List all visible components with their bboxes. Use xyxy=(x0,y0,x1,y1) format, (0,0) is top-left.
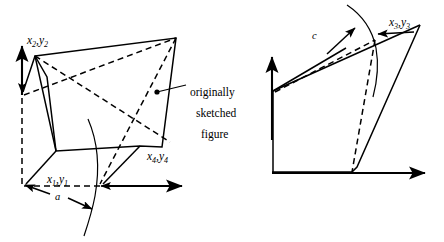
annotation-line-1: originally xyxy=(190,86,235,99)
annotation-line-3: figure xyxy=(201,128,228,141)
annotation-line-2: sketched xyxy=(196,107,236,119)
left-solid-polygon xyxy=(35,38,176,151)
right-edge-to-upper-left xyxy=(273,48,346,91)
right-edge-p3-to-bottom xyxy=(352,25,420,172)
callout-leader-line xyxy=(157,85,186,92)
left-diagram: x2,y2 x1,y1 x4,y4 a originally sketched … xyxy=(22,34,236,236)
right-diagram: x3,y3 c xyxy=(272,5,425,173)
right-p3-horizontal-arrow xyxy=(378,32,414,34)
label-c: c xyxy=(312,30,317,41)
left-dimension-arrow-to-arc xyxy=(68,198,92,209)
label-x3-y3: x3,y3 xyxy=(388,16,410,31)
technical-diagram-svg: x2,y2 x1,y1 x4,y4 a originally sketched … xyxy=(0,0,444,242)
left-dashed-diagonal xyxy=(35,56,170,142)
label-x2-y2: x2,y2 xyxy=(26,34,48,49)
right-dashed-upper xyxy=(275,40,375,92)
label-x4-y4: x4,y4 xyxy=(146,150,168,165)
label-a: a xyxy=(55,191,60,202)
figure-root: x2,y2 x1,y1 x4,y4 a originally sketched … xyxy=(0,0,444,242)
left-edge-p4-to-origin xyxy=(103,146,140,184)
left-sweep-arc xyxy=(84,119,98,236)
left-edge-axis-to-p2 xyxy=(23,56,35,92)
